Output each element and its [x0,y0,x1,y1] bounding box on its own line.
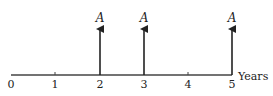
axis-label-years: Years [237,70,269,83]
cash-flow-arrow-5: A [227,11,237,75]
cash-flow-label: A [95,11,105,25]
cash-flow-label: A [139,11,149,25]
cash-flow-label: A [227,11,237,25]
cash-flow-arrow-2: A [95,11,105,75]
tick-label-5: 5 [229,78,236,91]
tick-label-3: 3 [141,78,148,91]
tick-label-2: 2 [97,78,104,91]
tick-labels: 0 1 2 3 4 5 [8,78,236,91]
tick-label-1: 1 [52,78,59,91]
cash-flow-diagram: 0 1 2 3 4 5 Years A A A [0,0,273,96]
tick-label-0: 0 [8,78,15,91]
cash-flow-arrow-3: A [139,11,149,75]
tick-label-4: 4 [185,78,192,91]
